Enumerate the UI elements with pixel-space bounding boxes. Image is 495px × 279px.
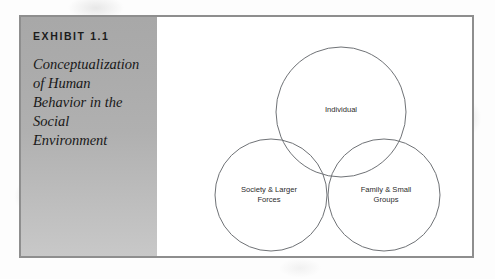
exhibit-frame: EXHIBIT 1.1 Conceptualization of Human B… (19, 15, 474, 258)
venn-label-family-small-groups: Family & SmallGroups (361, 185, 412, 205)
exhibit-title-line-3: Behavior in the (33, 93, 145, 112)
exhibit-caption-panel: EXHIBIT 1.1 Conceptualization of Human B… (21, 17, 157, 256)
venn-label-society-larger-forces: Society & LargerForces (241, 185, 298, 205)
exhibit-title-line-5: Environment (33, 131, 145, 150)
exhibit-title: Conceptualization of Human Behavior in t… (33, 55, 145, 150)
scanned-page-background: EXHIBIT 1.1 Conceptualization of Human B… (0, 0, 495, 279)
exhibit-title-line-1: Conceptualization (33, 55, 145, 74)
exhibit-title-line-2: of Human (33, 74, 145, 93)
venn-label-individual: Individual (325, 105, 357, 114)
venn-diagram: Individual Society & LargerForces Family… (157, 17, 476, 256)
exhibit-number-label: EXHIBIT 1.1 (33, 30, 145, 42)
venn-diagram-area: Individual Society & LargerForces Family… (157, 17, 472, 256)
exhibit-title-line-4: Social (33, 112, 145, 131)
